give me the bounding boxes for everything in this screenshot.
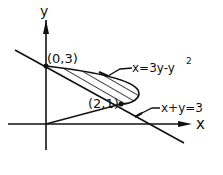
parabola-label-exponent: 2 [186,56,192,66]
y-axis-arrow-icon [43,20,49,34]
point-2-1-label: (2,1) [88,96,119,111]
point-2-1-marker [119,102,124,107]
line-leader-arrow-icon [135,113,142,117]
parabola-leader-line [108,68,132,76]
y-axis [43,20,49,150]
parabola-label: x=3y-y [132,61,175,75]
diagram-canvas: y x (0,3) (2,1) x=3y-y 2 x+y=3 [0,0,223,175]
x-axis-arrow-icon [178,121,192,127]
y-axis-label: y [40,3,48,19]
line-leader-line [140,108,160,114]
x-axis-label: x [196,115,205,133]
point-0-3-label: (0,3) [47,51,78,66]
line-label: x+y=3 [161,101,203,115]
x-axis [8,121,192,127]
